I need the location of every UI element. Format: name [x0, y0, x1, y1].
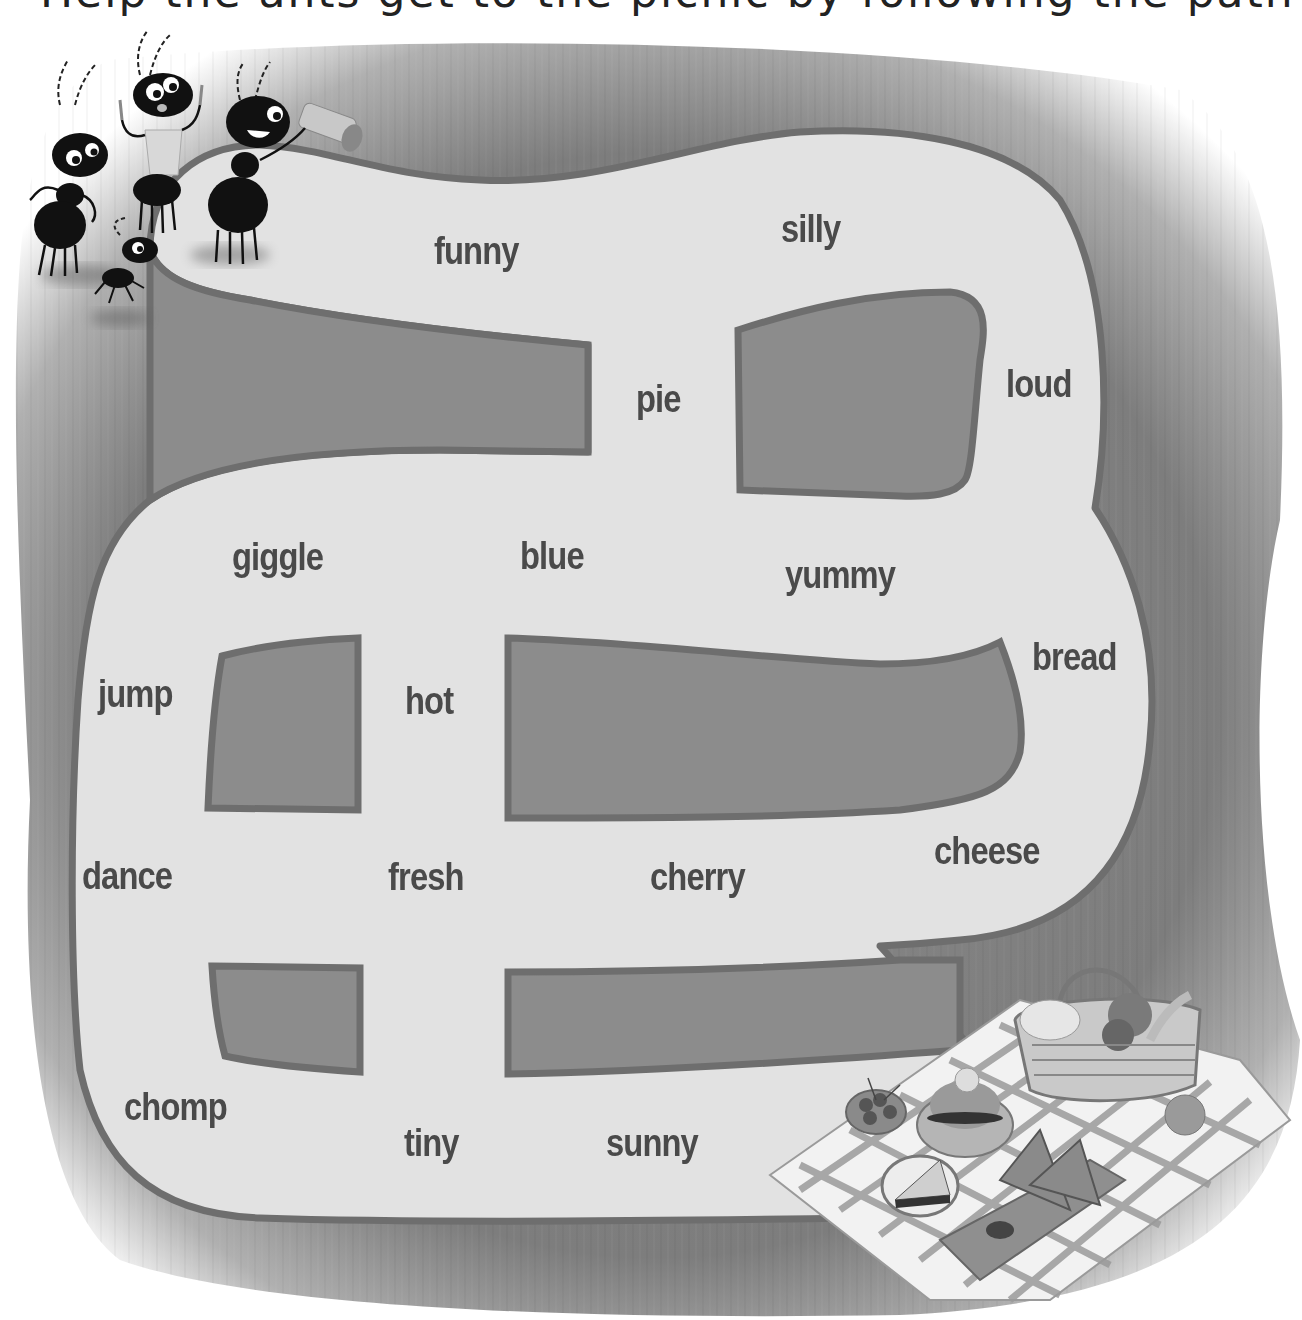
maze-word-jump[interactable]: jump — [98, 675, 173, 713]
maze-word-dance[interactable]: dance — [82, 857, 172, 895]
maze-word-blue[interactable]: blue — [520, 537, 584, 575]
pie-slice-icon — [882, 1156, 958, 1216]
orange-icon — [1165, 1095, 1205, 1135]
maze-word-tiny[interactable]: tiny — [404, 1124, 459, 1162]
maze-word-sunny[interactable]: sunny — [606, 1124, 698, 1162]
maze-word-giggle[interactable]: giggle — [232, 538, 323, 576]
maze-word-cherry[interactable]: cherry — [650, 858, 745, 896]
maze-wall-bottom-right — [508, 960, 960, 1074]
maze-word-loud[interactable]: loud — [1006, 365, 1072, 403]
maze-worksheet: Help the ants get to the picnic by follo… — [0, 0, 1302, 1320]
maze-wall-mid-right — [508, 638, 1021, 818]
maze-wall-mid-left — [208, 638, 358, 810]
maze-word-cheese[interactable]: cheese — [934, 832, 1040, 870]
maze-wall-bottom-left — [212, 966, 360, 1072]
maze-word-chomp[interactable]: chomp — [124, 1088, 227, 1126]
maze-word-fresh[interactable]: fresh — [388, 858, 464, 896]
maze-word-bread[interactable]: bread — [1032, 638, 1117, 676]
maze-word-funny[interactable]: funny — [434, 232, 519, 270]
maze-word-hot[interactable]: hot — [405, 682, 453, 720]
maze-wall-top-right — [738, 292, 983, 496]
maze-word-yummy[interactable]: yummy — [785, 556, 895, 594]
maze-word-silly[interactable]: silly — [781, 210, 840, 248]
maze-word-pie[interactable]: pie — [636, 380, 681, 418]
